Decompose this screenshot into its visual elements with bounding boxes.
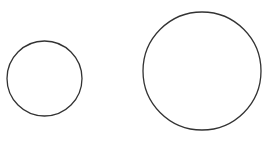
diagram-canvas: [0, 0, 267, 145]
small-circle: [7, 41, 82, 116]
large-circle: [143, 12, 261, 130]
